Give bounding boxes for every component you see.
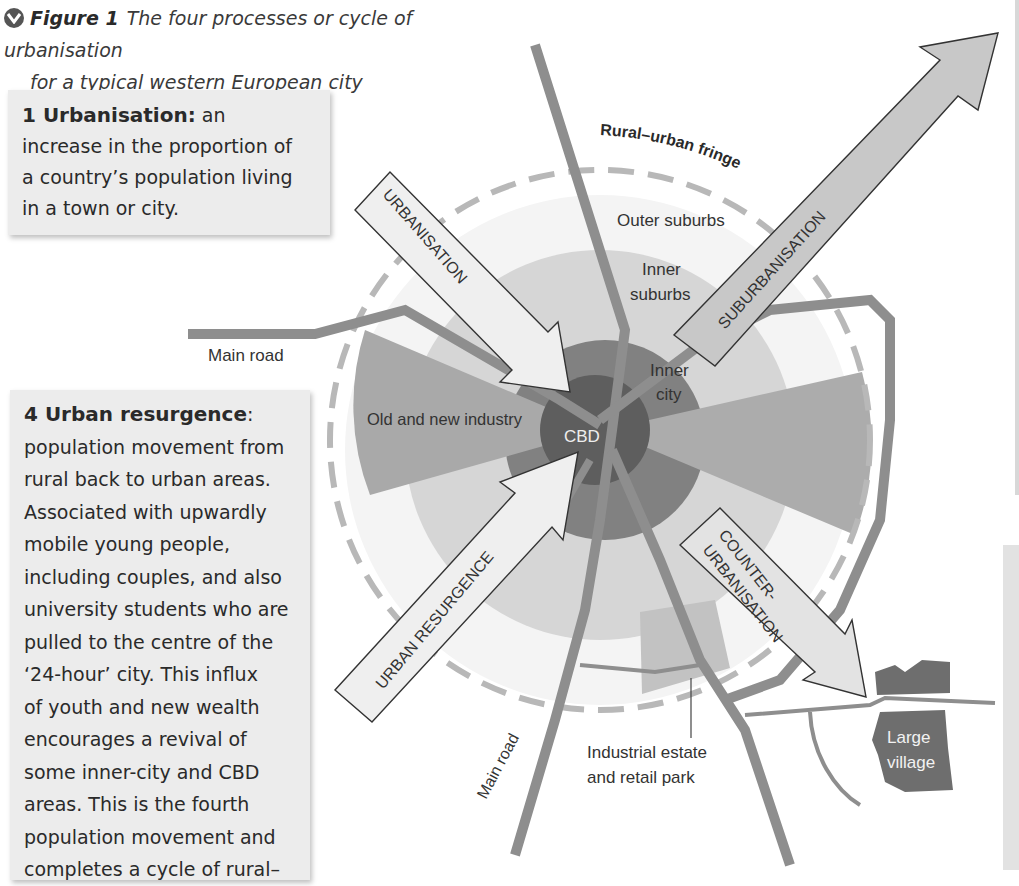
- village-label-1: Large: [887, 728, 930, 747]
- definition-urbanisation-title: 1 Urbanisation:: [22, 103, 196, 127]
- definition-resurgence-title: 4 Urban resurgence: [24, 402, 247, 426]
- industrial-estate-label-1: Industrial estate: [587, 743, 707, 762]
- definition-resurgence-line: some inner-city and CBD: [24, 761, 259, 783]
- definition-resurgence-line: Associated with upwardly: [24, 501, 267, 523]
- main-road-west-label: Main road: [208, 346, 284, 365]
- definition-resurgence-line: mobile young people,: [24, 533, 230, 555]
- definition-resurgence-line: encourages a revival of: [24, 728, 247, 750]
- definition-urbanisation-line: a country’s population living: [22, 166, 293, 188]
- definition-resurgence-line: population movement and: [24, 826, 276, 848]
- definition-resurgence-line: pulled to the centre of the: [24, 631, 273, 653]
- definition-resurgence-line: university students who are: [24, 598, 289, 620]
- definition-resurgence-line: including couples, and also: [24, 566, 282, 588]
- inner-city-label-2: city: [656, 385, 682, 404]
- definition-urban-resurgence: 4 Urban resurgence: population movement …: [10, 390, 310, 880]
- definition-resurgence-colon: :: [247, 403, 253, 425]
- definition-resurgence-line: rural back to urban areas.: [24, 468, 271, 490]
- inner-suburbs-label-2: suburbs: [630, 285, 690, 304]
- industrial-estate-label-2: and retail park: [587, 768, 695, 787]
- village-block-south: [872, 710, 953, 792]
- definition-resurgence-line: of youth and new wealth: [24, 696, 260, 718]
- industry-label: Old and new industry: [367, 410, 523, 428]
- road-village: [745, 698, 995, 715]
- fringe-label: Rural–urban fringe: [600, 121, 744, 172]
- village-block-north: [875, 660, 950, 695]
- inner-suburbs-label-1: Inner: [642, 260, 681, 279]
- adjacent-panel-edge: [1003, 545, 1019, 870]
- definition-resurgence-line: completes a cycle of rural–: [24, 858, 280, 880]
- definition-resurgence-line: population movement from: [24, 436, 284, 458]
- village-label-2: village: [887, 753, 935, 772]
- adjacent-panel-edge: [1015, 0, 1019, 495]
- definition-urbanisation-line: increase in the proportion of: [22, 135, 292, 157]
- definition-resurgence-line: ‘24-hour’ city. This influx: [24, 663, 258, 685]
- cbd-label: CBD: [564, 427, 600, 446]
- main-road-south-label: Main road: [474, 731, 522, 802]
- road-village-branch: [810, 712, 860, 805]
- definition-urbanisation: 1 Urbanisation: an increase in the propo…: [8, 90, 330, 235]
- inner-city-label-1: Inner: [650, 361, 689, 380]
- outer-suburbs-label: Outer suburbs: [617, 211, 725, 230]
- definition-resurgence-line: areas. This is the fourth: [24, 793, 249, 815]
- definition-urbanisation-line: an: [202, 104, 226, 126]
- definition-urbanisation-line: in a town or city.: [22, 197, 179, 219]
